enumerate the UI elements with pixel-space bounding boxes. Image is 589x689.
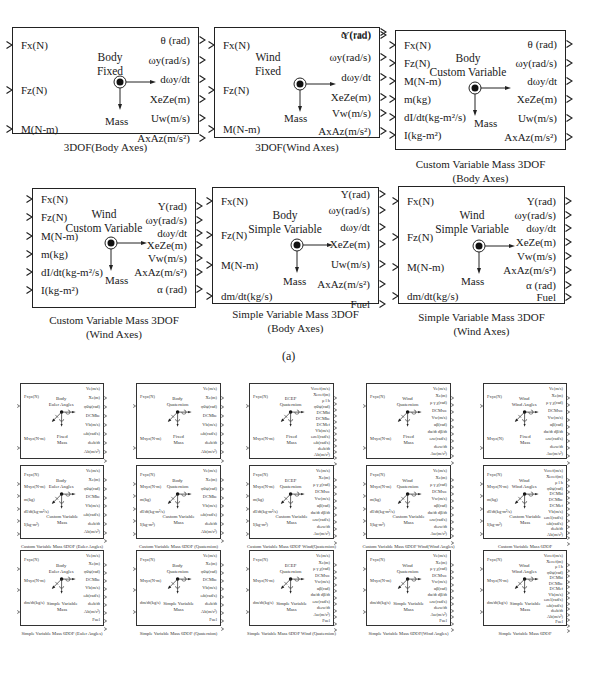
input-port-arrow-icon[interactable]	[480, 557, 483, 561]
input-port-arrow-icon[interactable]	[480, 472, 483, 476]
output-port-arrow-icon[interactable]	[334, 592, 337, 596]
output-port-arrow-icon[interactable]	[567, 486, 570, 490]
output-port-arrow-icon[interactable]	[379, 223, 386, 231]
input-port-arrow-icon[interactable]	[363, 394, 366, 398]
output-port-arrow-icon[interactable]	[221, 468, 224, 472]
output-port-arrow-icon[interactable]	[565, 238, 572, 246]
output-port-arrow-icon[interactable]	[196, 241, 203, 249]
input-port-arrow-icon[interactable]	[389, 59, 396, 67]
output-port-arrow-icon[interactable]	[334, 410, 337, 414]
output-port-arrow-icon[interactable]	[334, 517, 337, 521]
input-port-arrow-icon[interactable]	[26, 286, 33, 294]
input-port-arrow-icon[interactable]	[208, 125, 215, 133]
input-port-arrow-icon[interactable]	[17, 484, 20, 488]
output-port-arrow-icon[interactable]	[451, 436, 454, 440]
output-port-arrow-icon[interactable]	[334, 482, 337, 486]
block-6dof[interactable]: Fxyz(N)Mxyz(N-m)Ve(m/s)Xe(m)φθψ(rad)DCMb…	[136, 383, 221, 459]
input-port-arrow-icon[interactable]	[246, 600, 249, 604]
output-port-arrow-icon[interactable]	[334, 586, 337, 590]
output-port-arrow-icon[interactable]	[104, 468, 107, 472]
output-port-arrow-icon[interactable]	[566, 77, 573, 85]
input-port-arrow-icon[interactable]	[389, 131, 396, 139]
output-port-arrow-icon[interactable]	[567, 491, 570, 495]
output-port-arrow-icon[interactable]	[451, 531, 454, 535]
input-port-arrow-icon[interactable]	[17, 436, 20, 440]
output-port-arrow-icon[interactable]	[567, 429, 570, 433]
output-port-arrow-icon[interactable]	[567, 422, 570, 426]
output-port-arrow-icon[interactable]	[104, 512, 107, 516]
input-port-arrow-icon[interactable]	[133, 557, 136, 561]
output-port-arrow-icon[interactable]	[334, 503, 337, 507]
input-port-arrow-icon[interactable]	[133, 484, 136, 488]
output-port-arrow-icon[interactable]	[567, 532, 570, 536]
input-port-arrow-icon[interactable]	[480, 484, 483, 488]
output-port-arrow-icon[interactable]	[565, 252, 572, 260]
output-port-arrow-icon[interactable]	[221, 431, 224, 435]
input-port-arrow-icon[interactable]	[17, 557, 20, 561]
output-port-arrow-icon[interactable]	[221, 477, 224, 481]
output-port-arrow-icon[interactable]	[221, 521, 224, 525]
output-port-arrow-icon[interactable]	[565, 293, 572, 301]
output-port-arrow-icon[interactable]	[334, 573, 337, 577]
output-port-arrow-icon[interactable]	[334, 605, 337, 609]
output-port-arrow-icon[interactable]	[334, 386, 337, 390]
output-port-arrow-icon[interactable]	[380, 53, 387, 61]
input-port-arrow-icon[interactable]	[480, 578, 483, 582]
output-port-arrow-icon[interactable]	[104, 503, 107, 507]
output-port-arrow-icon[interactable]	[221, 577, 224, 581]
output-port-arrow-icon[interactable]	[196, 229, 203, 237]
output-port-arrow-icon[interactable]	[221, 529, 224, 533]
input-port-arrow-icon[interactable]	[26, 195, 33, 203]
output-port-arrow-icon[interactable]	[334, 566, 337, 570]
block-6dof[interactable]: Fxyz(N)Mxyz(N-m)m(kg)dI/dt(kg-m²/s)I(kg-…	[483, 465, 567, 539]
block-6dof[interactable]: Fxyz(N)Mxyz(N-m)dm/dt(kg/s)Vecef(m/s)Xec…	[483, 550, 567, 626]
output-port-arrow-icon[interactable]	[567, 444, 570, 448]
input-port-arrow-icon[interactable]	[392, 233, 399, 241]
input-port-arrow-icon[interactable]	[363, 436, 366, 440]
output-port-arrow-icon[interactable]	[221, 486, 224, 490]
output-port-arrow-icon[interactable]	[567, 415, 570, 419]
output-port-arrow-icon[interactable]	[104, 601, 107, 605]
output-port-arrow-icon[interactable]	[567, 497, 570, 501]
output-port-arrow-icon[interactable]	[334, 398, 337, 402]
output-port-arrow-icon[interactable]	[567, 553, 570, 557]
output-port-arrow-icon[interactable]	[221, 404, 224, 408]
output-port-arrow-icon[interactable]	[334, 524, 337, 528]
input-port-arrow-icon[interactable]	[133, 578, 136, 582]
input-port-arrow-icon[interactable]	[392, 197, 399, 205]
output-port-arrow-icon[interactable]	[567, 393, 570, 397]
output-port-arrow-icon[interactable]	[104, 521, 107, 525]
output-port-arrow-icon[interactable]	[334, 422, 337, 426]
input-port-arrow-icon[interactable]	[133, 394, 136, 398]
block-6dof[interactable]: Fxyz(N)Mxyz(N-m)m(kg)dI/dt(kg-m²/s)I(kg-…	[366, 465, 451, 539]
output-port-arrow-icon[interactable]	[104, 553, 107, 557]
output-port-arrow-icon[interactable]	[567, 509, 570, 513]
output-port-arrow-icon[interactable]	[104, 494, 107, 498]
output-port-arrow-icon[interactable]	[334, 428, 337, 432]
output-port-arrow-icon[interactable]	[199, 36, 206, 44]
output-port-arrow-icon[interactable]	[451, 599, 454, 603]
input-port-arrow-icon[interactable]	[389, 77, 396, 85]
output-port-arrow-icon[interactable]	[104, 431, 107, 435]
output-port-arrow-icon[interactable]	[221, 601, 224, 605]
output-port-arrow-icon[interactable]	[221, 503, 224, 507]
output-port-arrow-icon[interactable]	[451, 489, 454, 493]
output-port-arrow-icon[interactable]	[104, 486, 107, 490]
output-port-arrow-icon[interactable]	[380, 109, 387, 117]
input-port-arrow-icon[interactable]	[17, 394, 20, 398]
output-port-arrow-icon[interactable]	[334, 452, 337, 456]
output-port-arrow-icon[interactable]	[567, 436, 570, 440]
output-port-arrow-icon[interactable]	[196, 268, 203, 276]
output-port-arrow-icon[interactable]	[567, 592, 570, 596]
input-port-arrow-icon[interactable]	[363, 522, 366, 526]
output-port-arrow-icon[interactable]	[334, 489, 337, 493]
input-port-arrow-icon[interactable]	[26, 213, 33, 221]
input-port-arrow-icon[interactable]	[133, 472, 136, 476]
output-port-arrow-icon[interactable]	[334, 392, 337, 396]
input-port-arrow-icon[interactable]	[392, 263, 399, 271]
output-port-arrow-icon[interactable]	[451, 524, 454, 528]
output-port-arrow-icon[interactable]	[334, 612, 337, 616]
output-port-arrow-icon[interactable]	[196, 216, 203, 224]
output-port-arrow-icon[interactable]	[196, 285, 203, 293]
output-port-arrow-icon[interactable]	[334, 531, 337, 535]
